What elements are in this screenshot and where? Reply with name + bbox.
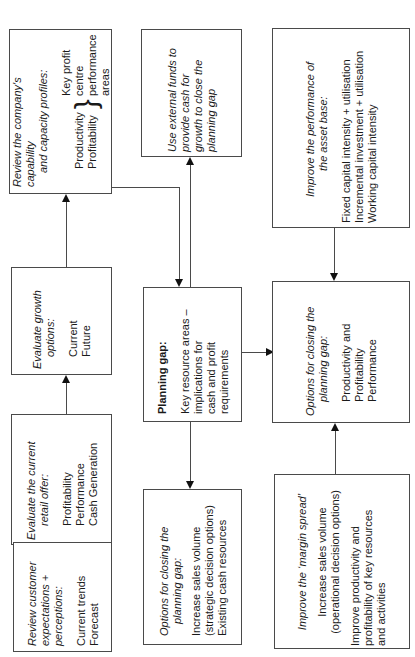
capability-brace-group: Productivity Profitability } Key profit … <box>59 37 111 187</box>
options-strategic-item: Increase sales volume <box>189 498 202 636</box>
brace-left-item: Productivity <box>72 112 85 169</box>
margin-group2-line: profitability of key resources <box>362 478 375 646</box>
planning-gap-line: requirements <box>217 296 230 414</box>
planning-gap-title: Planning gap: <box>155 296 168 414</box>
options-strategic-item: Existing cash resources <box>215 498 228 636</box>
external-line: growth to close the <box>192 34 205 152</box>
brace-right-item: Key profit <box>59 34 72 96</box>
retail-title-2: retail offer: <box>37 420 50 540</box>
growth-item: Current <box>67 273 80 369</box>
box-options-productivity: Options for closing the planning gap: Pr… <box>272 281 410 423</box>
planning-gap-line: implications for <box>191 296 204 414</box>
arrow-up-icon <box>331 423 339 431</box>
customer-item: Forecast <box>87 548 100 646</box>
external-line: provide cash for <box>179 34 192 152</box>
options-productivity-item: Performance <box>366 288 379 416</box>
external-funds-content: Use external funds to provide cash for g… <box>166 34 218 152</box>
external-line: Use external funds to <box>166 34 179 152</box>
arrow-down-icon <box>330 273 338 281</box>
options-productivity-title-1: Options for closing the <box>304 288 317 416</box>
capability-title-2: and capacity profiles: <box>36 37 49 187</box>
arrow-up-icon <box>62 194 70 202</box>
box-external-funds: Use external funds to provide cash for g… <box>141 29 242 157</box>
customer-title-3: perceptions: <box>51 548 64 646</box>
connector-growth-capability <box>66 200 67 267</box>
planning-gap-line: cash and profit <box>204 296 217 414</box>
customer-title-2: expectations + <box>38 548 51 646</box>
box-capability-profiles: Review the company's capability and capa… <box>9 29 112 194</box>
margin-title: Improve the ‘margin spread’ <box>296 478 309 646</box>
options-strategic-content: Options for closing the planning gap: In… <box>157 498 228 636</box>
connector-retail-growth <box>66 383 67 414</box>
box-margin-spread: Improve the ‘margin spread’ Increase sal… <box>274 474 410 649</box>
arrow-down-icon <box>175 279 183 287</box>
options-strategic-title-2: planning gap: <box>170 498 183 636</box>
growth-title-2: options: <box>44 273 57 369</box>
margin-spread-content: Improve the ‘margin spread’ Increase sal… <box>296 478 388 646</box>
asset-item: Working capital intensity <box>366 33 379 223</box>
growth-title-1: Evaluate growth <box>31 273 44 369</box>
retail-item: Performance <box>73 420 86 540</box>
brace-right-item: centre <box>72 34 85 96</box>
options-productivity-item: Profitability <box>353 288 366 416</box>
box-planning-gap: Planning gap: Key resource areas – impli… <box>143 287 242 422</box>
box-customer-expectations: Review customer expectations + perceptio… <box>13 542 112 652</box>
options-productivity-item: Productivity and <box>340 288 353 416</box>
margin-group2-line: and activities <box>375 478 388 646</box>
asset-item: Incremental investment + utilisation <box>353 33 366 223</box>
external-line: planning gap <box>205 34 218 152</box>
connector-margin-options <box>335 431 336 474</box>
customer-content: Review customer expectations + perceptio… <box>25 548 100 646</box>
arrow-up-icon <box>186 157 194 165</box>
arrow-down-icon <box>186 481 194 489</box>
brace-left-item: Profitability <box>85 112 98 169</box>
retail-content: Evaluate the current retail offer: Profi… <box>24 420 99 540</box>
brace-right-item: areas <box>98 34 111 96</box>
capability-title-1: Review the company's capability <box>10 37 36 187</box>
retail-item: Profitability <box>60 420 73 540</box>
customer-item: Current trends <box>74 548 87 646</box>
connector-planning-options-productivity <box>242 352 266 353</box>
margin-group1-line: Increase sales volume <box>316 478 329 646</box>
asset-title-1: Improve the performance of <box>304 33 317 223</box>
box-asset-base: Improve the performance of the asset bas… <box>272 28 410 228</box>
asset-title-2: the asset base: <box>317 33 330 223</box>
capability-content: Review the company's capability and capa… <box>10 37 111 187</box>
asset-item: Fixed capital intensity + utilisation <box>340 33 353 223</box>
box-growth-options: Evaluate growth options: Current Future <box>11 267 112 375</box>
options-productivity-content: Options for closing the planning gap: Pr… <box>304 288 379 416</box>
brace-right-item: performance <box>85 34 98 96</box>
brace-icon: } <box>72 99 98 109</box>
connector-planning-external <box>190 164 191 287</box>
arrow-up-icon <box>62 375 70 383</box>
retail-title-1: Evaluate the current <box>24 420 37 540</box>
growth-item: Future <box>80 273 93 369</box>
connector-planning-options-strategic <box>190 422 191 482</box>
connector-capability-planning-v <box>179 187 180 280</box>
margin-group2-line: Improve productivity and <box>349 478 362 646</box>
options-strategic-title-1: Options for closing the <box>157 498 170 636</box>
options-productivity-title-2: planning gap: <box>317 288 330 416</box>
box-options-strategic: Options for closing the planning gap: In… <box>143 489 242 645</box>
planning-gap-content: Planning gap: Key resource areas – impli… <box>155 296 230 414</box>
options-strategic-item: (strategic decision options) <box>202 498 215 636</box>
retail-item: Cash Generation <box>86 420 99 540</box>
growth-content: Evaluate growth options: Current Future <box>31 273 93 369</box>
asset-base-content: Improve the performance of the asset bas… <box>304 33 379 223</box>
planning-gap-line: Key resource areas – <box>178 296 191 414</box>
customer-title-1: Review customer <box>25 548 38 646</box>
margin-group1-line: (operational decision options) <box>329 478 342 646</box>
box-retail-offer: Evaluate the current retail offer: Profi… <box>11 414 112 545</box>
connector-capability-planning-h <box>112 187 180 188</box>
connector-asset-options <box>334 228 335 274</box>
